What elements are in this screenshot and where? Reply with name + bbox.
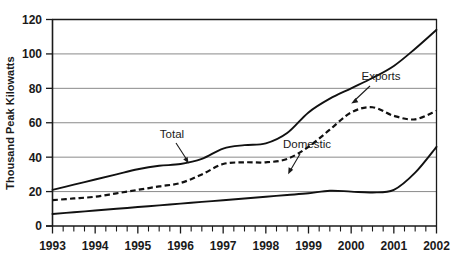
y-tick-label-60: 60 [29,116,43,130]
y-tick-label-120: 120 [22,13,42,27]
x-tick-label-1994: 1994 [82,239,109,253]
y-tick-label-80: 80 [29,82,43,96]
x-tick-label-1993: 1993 [39,239,66,253]
y-tick-label-0: 0 [35,219,42,233]
x-tick-label-1997: 1997 [210,239,237,253]
y-tick-label-100: 100 [22,47,42,61]
y-tick-label-40: 40 [29,151,43,165]
chart-background [0,0,457,273]
chart-svg: 020406080100120 199319941995199619971998… [0,0,457,273]
y-tick-label-20: 20 [29,185,43,199]
line-chart: 020406080100120 199319941995199619971998… [0,0,457,273]
x-tick-label-2002: 2002 [423,239,450,253]
x-tick-label-1996: 1996 [167,239,194,253]
annotation-domestic-label: Domestic [283,138,331,150]
x-tick-label-1999: 1999 [295,239,322,253]
x-tick-label-1995: 1995 [124,239,151,253]
annotation-exports-label: Exports [362,70,401,82]
x-tick-label-1998: 1998 [252,239,279,253]
annotation-total-label: Total [160,128,184,140]
x-tick-label-2001: 2001 [380,239,407,253]
x-tick-label-2000: 2000 [338,239,365,253]
y-axis-title: Thousand Peak Kilowatts [4,56,16,189]
